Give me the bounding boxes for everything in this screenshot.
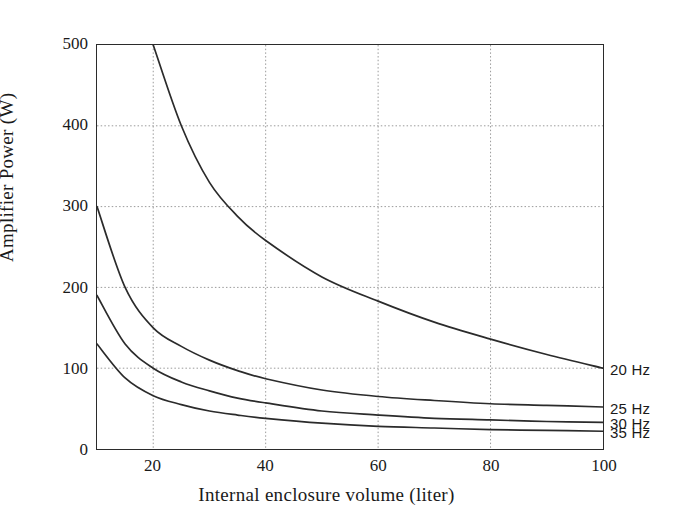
x-tick-label-80: 80: [483, 456, 500, 476]
x-tick-label-40: 40: [257, 456, 274, 476]
curve-35-hz: [97, 344, 603, 431]
x-tick-label-100: 100: [591, 456, 617, 476]
y-axis-title: Amplifier Power (W): [0, 93, 18, 262]
series-curves: [97, 45, 603, 449]
x-tick-label-60: 60: [370, 456, 387, 476]
curve-20-hz: [153, 45, 603, 368]
curve-30-hz: [97, 295, 603, 422]
series-label-25-hz: 25 Hz: [610, 399, 650, 416]
series-label-20-hz: 20 Hz: [610, 360, 650, 377]
series-label-35-hz: 35 Hz: [610, 424, 650, 441]
plot-area: [96, 44, 604, 450]
curve-25-hz: [97, 207, 603, 407]
x-axis-title-text: Internal enclosure volume (liter): [198, 484, 454, 506]
x-axis-title: Internal enclosure volume (liter): [0, 484, 687, 506]
x-tick-label-20: 20: [144, 456, 161, 476]
chart-figure: 0100200300400500 20406080100 Amplifier P…: [0, 0, 687, 524]
